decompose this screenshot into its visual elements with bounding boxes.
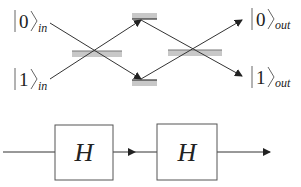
diagram-canvas: 0 in 1 in 0 out 1 out (0, 0, 301, 187)
svg-text:H: H (74, 138, 95, 167)
hadamard-gate-2: H (157, 124, 217, 180)
input-label-1: 1 in (15, 68, 47, 93)
svg-text:in: in (38, 79, 47, 93)
hadamard-gate-1: H (55, 125, 113, 180)
svg-text:0: 0 (256, 9, 266, 30)
svg-text:out: out (275, 18, 291, 32)
output-label-0: 0 out (252, 8, 291, 32)
svg-text:1: 1 (19, 69, 29, 90)
mirror-top (132, 13, 157, 19)
svg-text:H: H (177, 138, 198, 167)
svg-text:out: out (275, 76, 291, 90)
svg-text:0: 0 (19, 11, 29, 32)
input-label-0: 0 in (15, 10, 47, 35)
mirror-bottom (132, 80, 157, 86)
svg-text:in: in (38, 21, 47, 35)
svg-text:1: 1 (256, 67, 266, 88)
output-label-1: 1 out (252, 66, 291, 90)
beam-splitter-2 (168, 50, 222, 56)
